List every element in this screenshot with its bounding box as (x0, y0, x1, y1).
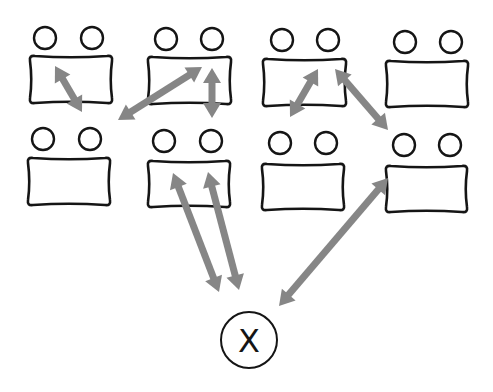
chair-icon (440, 31, 462, 53)
chair-icon (271, 29, 293, 51)
arrowhead-icon (203, 103, 221, 118)
desk-group (386, 31, 468, 107)
desk-group (262, 132, 344, 210)
chair-icon (269, 132, 291, 154)
desk-group (28, 128, 110, 205)
table-5 (28, 158, 110, 205)
chair-icon (317, 29, 339, 51)
table-4 (386, 61, 468, 107)
chair-icon (32, 128, 54, 150)
chair-icon (155, 28, 177, 50)
table-7 (262, 164, 344, 210)
table-8 (386, 166, 467, 212)
chair-icon (200, 130, 222, 152)
center-node: X (221, 312, 277, 368)
tables-layer (28, 27, 468, 212)
desk-group (386, 134, 467, 212)
chair-icon (79, 128, 101, 150)
seating-diagram: X (0, 0, 493, 392)
chair-icon (393, 134, 415, 156)
x-node-label: X (238, 322, 260, 360)
chair-icon (315, 132, 337, 154)
chair-icon (439, 134, 461, 156)
chair-icon (394, 31, 416, 53)
arrowhead-icon (226, 273, 243, 290)
chair-icon (81, 27, 103, 49)
chair-icon (201, 28, 223, 50)
chair-icon (34, 27, 56, 49)
chair-icon (153, 130, 175, 152)
